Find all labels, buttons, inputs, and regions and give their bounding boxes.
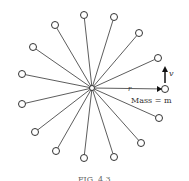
- spoke-diagram: v r Mass = m FIG. 4.3: [0, 0, 189, 181]
- mass-node: [52, 22, 59, 29]
- mass-node: [136, 30, 143, 37]
- spoke: [92, 20, 113, 88]
- figure-caption: FIG. 4.3: [78, 175, 111, 181]
- spoke: [84, 88, 92, 155]
- radius-label: r: [128, 85, 132, 93]
- mass-node: [111, 14, 118, 21]
- mass-node: [30, 44, 37, 51]
- spoke: [58, 88, 92, 148]
- mass-node: [156, 115, 163, 122]
- velocity-arrow-icon: [162, 66, 168, 83]
- mass-node: [19, 101, 26, 108]
- spoke: [92, 36, 137, 88]
- mass-node: [19, 71, 26, 78]
- mass-node: [32, 129, 39, 136]
- mass-node: [111, 154, 118, 161]
- mass-node: [81, 12, 88, 19]
- center-hub: [90, 86, 95, 91]
- mass-node: [81, 155, 88, 162]
- spoke: [92, 88, 162, 89]
- spoke: [92, 88, 113, 154]
- velocity-label: v: [169, 69, 174, 78]
- mass-node: [162, 86, 169, 93]
- radius-arrowhead-icon: [157, 86, 162, 92]
- spoke: [92, 59, 155, 88]
- mass-node: [155, 55, 162, 62]
- mass-node: [138, 140, 145, 147]
- mass-label: Mass = m: [131, 96, 172, 105]
- mass-node: [53, 148, 60, 155]
